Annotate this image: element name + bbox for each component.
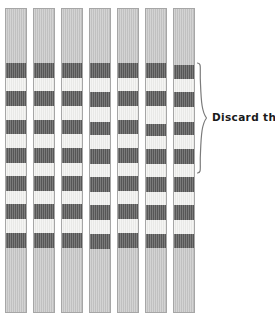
band-dark xyxy=(118,63,138,78)
lane-strip xyxy=(145,8,167,313)
band-light xyxy=(34,134,54,148)
band-dark xyxy=(62,120,82,134)
band-dark xyxy=(146,149,166,164)
band-light xyxy=(34,163,54,176)
band-light xyxy=(34,219,54,233)
lane-strip xyxy=(89,8,111,313)
lane-strip xyxy=(33,8,55,313)
band-light xyxy=(146,136,166,149)
band-dark xyxy=(118,204,138,219)
band-light xyxy=(62,134,82,148)
band-light xyxy=(174,164,194,177)
lane-bands xyxy=(90,9,110,312)
band-light xyxy=(6,106,26,120)
band-dark xyxy=(34,204,54,219)
band-light xyxy=(174,220,194,234)
band-dark xyxy=(34,91,54,106)
band-light xyxy=(34,191,54,204)
band-dark xyxy=(62,91,82,106)
band-dark xyxy=(62,176,82,191)
band-blank xyxy=(34,9,54,63)
band-dark xyxy=(90,92,110,107)
band-light xyxy=(174,107,194,122)
discard-these-label: Discard these. xyxy=(212,111,275,123)
lane-strip xyxy=(5,8,27,313)
lane-strip xyxy=(61,8,83,313)
band-light xyxy=(146,192,166,205)
band-light xyxy=(118,134,138,148)
band-light xyxy=(118,78,138,91)
band-dark xyxy=(90,122,110,135)
band-dark xyxy=(34,148,54,163)
band-dark xyxy=(62,148,82,163)
band-light xyxy=(146,78,166,91)
band-light xyxy=(90,220,110,234)
band-dark xyxy=(34,63,54,78)
lane-bands xyxy=(34,9,54,312)
band-dark xyxy=(90,205,110,220)
band-dark xyxy=(90,149,110,164)
band-dark xyxy=(174,149,194,164)
lane-strip xyxy=(117,8,139,313)
band-light xyxy=(118,106,138,120)
band-light xyxy=(118,163,138,176)
band-dark xyxy=(90,63,110,78)
band-dark xyxy=(174,92,194,107)
band-dark xyxy=(174,205,194,220)
band-light xyxy=(62,78,82,91)
lane-bands xyxy=(146,9,166,312)
band-blank xyxy=(62,248,82,312)
band-dark xyxy=(6,120,26,134)
band-dark xyxy=(90,234,110,249)
band-light xyxy=(174,79,194,92)
band-light xyxy=(146,106,166,124)
band-blank xyxy=(146,9,166,63)
band-dark xyxy=(6,176,26,191)
band-light xyxy=(6,219,26,233)
band-blank xyxy=(118,9,138,63)
band-dark xyxy=(146,205,166,220)
band-light xyxy=(90,192,110,205)
lane-bands xyxy=(118,9,138,312)
band-dark xyxy=(118,148,138,163)
band-dark xyxy=(174,65,194,79)
band-dark xyxy=(62,233,82,248)
band-dark xyxy=(146,63,166,78)
gel-lanes-figure: Discard these. xyxy=(0,0,275,329)
lane-bands xyxy=(6,9,26,312)
band-light xyxy=(146,220,166,234)
band-light xyxy=(62,191,82,204)
band-light xyxy=(34,78,54,91)
band-dark xyxy=(62,63,82,78)
band-blank xyxy=(6,9,26,63)
band-blank xyxy=(118,248,138,312)
band-blank xyxy=(174,9,194,65)
band-dark xyxy=(118,176,138,191)
band-dark xyxy=(34,233,54,248)
band-dark xyxy=(90,177,110,192)
band-dark xyxy=(118,91,138,106)
band-blank xyxy=(34,248,54,312)
band-dark xyxy=(146,124,166,136)
band-dark xyxy=(146,91,166,106)
band-dark xyxy=(6,148,26,163)
band-light xyxy=(6,134,26,148)
band-light xyxy=(90,164,110,177)
band-blank xyxy=(90,9,110,63)
band-dark xyxy=(6,204,26,219)
band-dark xyxy=(62,204,82,219)
band-dark xyxy=(174,122,194,135)
band-light xyxy=(146,164,166,177)
band-dark xyxy=(6,233,26,248)
band-dark xyxy=(6,63,26,78)
band-light xyxy=(62,106,82,120)
band-light xyxy=(118,191,138,204)
band-blank xyxy=(62,9,82,63)
band-light xyxy=(62,219,82,233)
band-dark xyxy=(146,234,166,248)
lane-strip xyxy=(173,8,195,313)
band-light xyxy=(174,135,194,149)
band-blank xyxy=(174,248,194,312)
curly-brace-icon xyxy=(196,62,208,174)
band-dark xyxy=(174,177,194,192)
